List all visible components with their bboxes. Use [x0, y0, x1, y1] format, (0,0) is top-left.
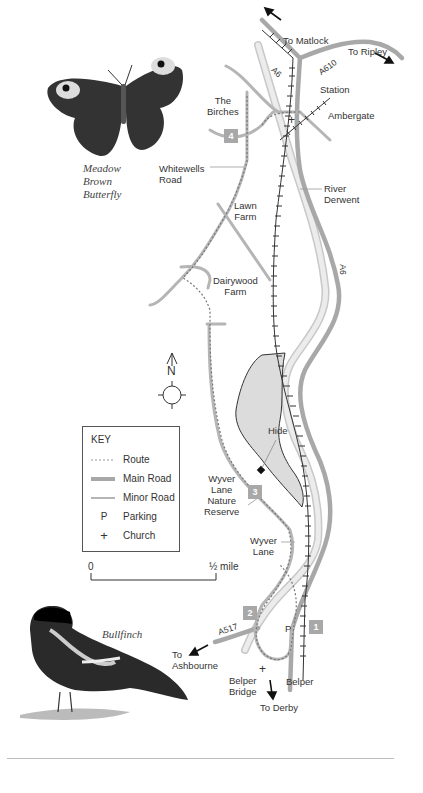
minor-road-ambergate	[300, 112, 330, 140]
stage-marker-1: 1	[309, 620, 323, 634]
route-symbol-icon	[91, 453, 117, 467]
label-ashbourne-line1: To	[172, 649, 218, 660]
label-belper-bridge-line1: Belper	[229, 675, 256, 686]
label-belper-bridge-line2: Bridge	[229, 686, 256, 697]
compass-north-label: N	[167, 366, 176, 377]
label-the-birches-line1: The	[207, 95, 239, 106]
label-whitewells-road: Whitewells Road	[159, 163, 204, 185]
hide-marker	[257, 466, 265, 474]
label-the-birches-line2: Birches	[207, 106, 239, 117]
label-river-line2: Derwent	[324, 194, 359, 205]
bullfinch-caption: Bullfinch	[102, 628, 142, 641]
label-river-line1: River	[324, 183, 359, 194]
label-belper-bridge: Belper Bridge	[229, 675, 256, 697]
label-to-matlock: To Matlock	[283, 35, 328, 46]
label-the-birches: The Birches	[207, 95, 239, 117]
label-to-ripley: To Ripley	[348, 46, 387, 57]
label-wyver-lane-nature-reserve: Wyver Lane Nature Reserve	[204, 473, 239, 517]
label-belper: Belper	[286, 676, 313, 687]
label-station: Station	[320, 84, 350, 95]
butterfly-caption-line1: Meadow	[83, 162, 122, 175]
label-lawn-line1: Lawn	[234, 200, 257, 211]
minor-road-dairywood	[181, 266, 210, 288]
stage-marker-2: 2	[243, 606, 257, 620]
map-key: KEY Route Main Road Minor Road P Parking…	[82, 426, 180, 552]
butterfly-caption-line2: Brown	[83, 175, 122, 188]
label-to-ashbourne: To Ashbourne	[172, 649, 218, 671]
stage-marker-4: 4	[224, 129, 238, 143]
scale-end-label: ½ mile	[209, 561, 238, 572]
label-hide: Hide	[268, 425, 288, 436]
key-label-main-road: Main Road	[123, 473, 171, 484]
label-wyver-lane-line1: Wyver	[250, 535, 277, 546]
label-dairywood-line2: Farm	[213, 286, 258, 297]
key-title: KEY	[91, 434, 111, 445]
label-dairywood-farm: Dairywood Farm	[213, 275, 258, 297]
footer-divider	[7, 758, 394, 759]
label-reserve-line4: Reserve	[204, 506, 239, 517]
parking-symbol-icon: P	[91, 510, 117, 524]
label-reserve-line3: Nature	[204, 495, 239, 506]
label-reserve-line2: Lane	[204, 484, 239, 495]
bullfinch-illustration	[20, 606, 188, 720]
label-lawn-farm: Lawn Farm	[234, 200, 257, 222]
church-marker-belper: +	[259, 664, 266, 675]
label-ambergate: Ambergate	[328, 110, 374, 121]
butterfly-caption: Meadow Brown Butterfly	[83, 162, 122, 201]
label-ashbourne-line2: Ashbourne	[172, 660, 218, 671]
main-road-symbol-icon	[91, 472, 117, 486]
church-marker-birches: +	[288, 115, 295, 126]
scale-start-label: 0	[88, 561, 94, 572]
label-whitewells-line2: Road	[159, 174, 204, 185]
label-reserve-line1: Wyver	[204, 473, 239, 484]
compass-rose	[158, 353, 186, 409]
label-lawn-line2: Farm	[234, 211, 257, 222]
minor-road-whitewells	[150, 92, 247, 305]
scale-bar	[91, 573, 216, 580]
label-dairywood-line1: Dairywood	[213, 275, 258, 286]
meadow-brown-butterfly-illustration	[47, 57, 183, 156]
label-a6-east: A6	[337, 264, 348, 274]
label-whitewells-line1: Whitewells	[159, 163, 204, 174]
parking-marker: P	[285, 623, 291, 634]
key-label-minor-road: Minor Road	[123, 492, 175, 503]
key-label-route: Route	[123, 454, 150, 465]
label-wyver-lane: Wyver Lane	[250, 535, 277, 557]
key-label-church: Church	[123, 530, 155, 541]
label-river-derwent: River Derwent	[324, 183, 359, 205]
label-wyver-lane-line2: Lane	[250, 546, 277, 557]
label-to-derby: To Derby	[260, 702, 298, 713]
church-symbol-icon: +	[91, 529, 117, 543]
key-label-parking: Parking	[123, 511, 157, 522]
minor-road-symbol-icon	[91, 491, 117, 505]
butterfly-caption-line3: Butterfly	[83, 188, 122, 201]
arrow-to-matlock	[270, 12, 281, 20]
stage-marker-3: 3	[248, 485, 262, 499]
